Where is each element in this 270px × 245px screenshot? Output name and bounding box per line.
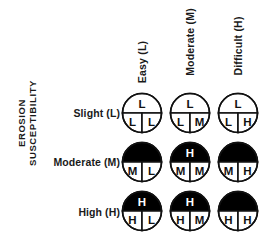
svg-text:L: L [186,98,193,110]
svg-text:H: H [128,214,136,226]
matrix-cell: LLM [169,92,211,134]
column-header-label: Easy (L) [136,41,148,83]
column-header-label: Difficult (H) [232,16,244,75]
svg-text:L: L [138,98,145,110]
svg-text:L: L [177,116,184,128]
row-label-moderate: Moderate (M) [30,156,120,168]
matrix-cell: LLH [217,92,259,134]
column-header-easy: Easy (L) [120,0,164,92]
matrix-cell: HH [217,190,259,232]
svg-text:L: L [148,165,155,177]
matrix-cell: HMM [169,141,211,183]
column-header-moderate: Moderate (M) [168,0,212,92]
svg-text:L: L [148,116,155,128]
matrix-cell: MH [217,141,259,183]
svg-text:H: H [138,196,146,208]
svg-text:H: H [176,214,184,226]
svg-text:M: M [176,165,186,177]
svg-text:H: H [224,214,232,226]
svg-text:L: L [234,98,241,110]
column-header-difficult: Difficult (H) [216,0,260,92]
svg-text:L: L [148,214,155,226]
svg-text:H: H [186,196,194,208]
erosion-susceptibility-matrix-figure: EROSION SUSCEPTIBILITY Easy (L) Moderate… [0,0,270,245]
matrix-cell: LLL [121,92,163,134]
y-axis-title-line-2: SUSCEPTIBILITY [27,80,38,166]
svg-text:M: M [195,116,205,128]
matrix-cell: ML [121,141,163,183]
svg-text:H: H [243,214,251,226]
svg-text:H: H [186,147,194,159]
svg-text:M: M [128,165,138,177]
svg-text:M: M [195,165,205,177]
svg-text:H: H [243,116,251,128]
column-header-label: Moderate (M) [184,8,196,76]
svg-text:M: M [195,214,205,226]
svg-text:M: M [224,165,234,177]
svg-text:L: L [129,116,136,128]
y-axis-title-line-1: EROSION [16,80,27,166]
svg-text:H: H [243,165,251,177]
row-label-high: High (H) [30,206,120,218]
matrix-cell: HHM [169,190,211,232]
row-label-slight: Slight (L) [30,107,120,119]
svg-text:L: L [225,116,232,128]
matrix-cell: HHL [121,190,163,232]
